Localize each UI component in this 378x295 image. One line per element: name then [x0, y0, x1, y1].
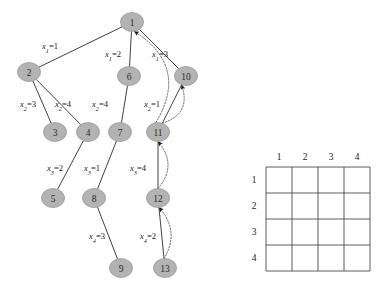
edge-label-value: =2	[54, 163, 63, 173]
edge-label-value: =3	[159, 49, 168, 59]
edge-weight-label: x2=1	[143, 99, 160, 112]
tree-edge-layer	[33, 27, 182, 259]
graph-node[interactable]: 3	[44, 123, 67, 142]
tree-edge	[162, 85, 181, 123]
grid-column-header: 3	[329, 152, 334, 162]
node-label: 9	[119, 264, 124, 274]
edge-weight-label: x3=1	[83, 163, 100, 176]
grid-column-header: 4	[355, 152, 360, 162]
graph-node[interactable]: 5	[42, 189, 65, 208]
grid-row-header: 1	[252, 175, 257, 185]
edge-weight-label: x3=4	[129, 163, 147, 176]
edge-weight-label: x2=4	[54, 99, 72, 112]
edge-label-layer: x1=1x1=2x1=3x2=3x2=4x2=4x2=1x3=2x3=1x3=4…	[19, 41, 168, 244]
figure-canvas: 12345678910111213 x1=1x1=2x1=3x2=3x2=4x2…	[0, 0, 378, 295]
edge-weight-label: x1=1	[41, 41, 58, 54]
edge-weight-label: x4=3	[88, 231, 105, 244]
back-edge-layer	[134, 31, 184, 258]
edge-label-value: =2	[112, 49, 121, 59]
edge-label-value: =1	[151, 99, 160, 109]
graph-node[interactable]: 1	[121, 13, 144, 32]
edge-weight-label: x4=2	[139, 231, 156, 244]
grid-layer: 12341234	[252, 152, 370, 271]
edge-weight-label: x2=4	[91, 99, 109, 112]
graph-node[interactable]: 6	[118, 67, 141, 86]
edge-label-value: =4	[62, 99, 72, 109]
node-label: 10	[181, 72, 191, 82]
grid-row-header: 3	[252, 227, 257, 237]
edge-weight-label: x1=2	[104, 49, 121, 62]
graph-node[interactable]: 11	[147, 123, 170, 142]
tree-edge	[130, 31, 132, 66]
back-edge-arrow	[158, 142, 168, 189]
node-label: 11	[153, 128, 162, 138]
node-label: 6	[127, 72, 132, 82]
tree-edge	[122, 85, 128, 122]
graph-node[interactable]: 8	[83, 189, 106, 208]
graph-node[interactable]: 4	[77, 123, 100, 142]
node-label: 3	[53, 128, 58, 138]
graph-node[interactable]: 12	[147, 189, 170, 208]
edge-label-value: =2	[147, 231, 156, 241]
grid-row-header: 2	[252, 201, 257, 211]
node-label: 1	[130, 18, 135, 28]
tree-and-grid-diagram: 12345678910111213 x1=1x1=2x1=3x2=3x2=4x2…	[0, 0, 378, 295]
graph-node[interactable]: 10	[175, 67, 198, 86]
edge-label-value: =3	[96, 231, 105, 241]
edge-label-value: =4	[99, 99, 109, 109]
edge-label-value: =1	[91, 163, 100, 173]
node-label: 5	[51, 194, 56, 204]
edge-weight-label: x2=3	[19, 99, 36, 112]
edge-label-value: =3	[27, 99, 36, 109]
node-label: 12	[153, 194, 163, 204]
node-label: 7	[118, 128, 123, 138]
node-label: 4	[86, 128, 91, 138]
grid-column-header: 1	[277, 152, 282, 162]
back-edge-arrow	[159, 207, 171, 258]
edge-label-value: =1	[49, 41, 58, 51]
edge-weight-label: x1=3	[151, 49, 168, 62]
grid-column-header: 2	[303, 152, 308, 162]
tree-edge	[159, 207, 164, 258]
graph-node[interactable]: 7	[109, 123, 132, 142]
node-label: 2	[27, 68, 32, 78]
node-label: 8	[92, 194, 97, 204]
graph-node[interactable]: 2	[18, 63, 41, 82]
node-label: 13	[160, 264, 170, 274]
grid-row-header: 4	[252, 253, 257, 263]
graph-node[interactable]: 9	[110, 259, 133, 278]
edge-weight-label: x3=2	[46, 163, 63, 176]
tree-edge	[98, 141, 117, 189]
edge-label-value: =4	[137, 163, 147, 173]
graph-node[interactable]: 13	[154, 259, 177, 278]
